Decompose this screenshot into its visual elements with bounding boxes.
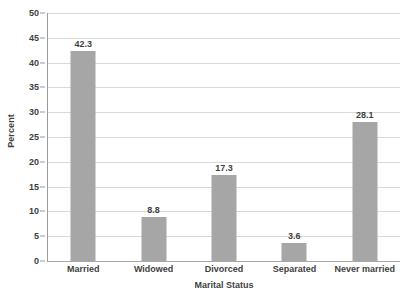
x-axis-tick-label: Divorced [205,264,244,274]
bars-layer: 42.38.817.33.628.1 [48,13,400,261]
y-axis-tick-label: 10 [29,206,39,216]
gridline [48,261,400,262]
y-axis-tick-label: 30 [29,107,39,117]
y-axis-ticks: 05101520253035404550 [0,13,48,261]
x-axis-title: Marital Status [48,280,400,290]
bar-slot: 42.3 [48,13,118,261]
y-axis-tick-mark [40,13,45,14]
bar-slot: 8.8 [118,13,188,261]
bar[interactable] [211,175,236,261]
bar[interactable] [141,217,166,261]
bar-slot: 3.6 [259,13,329,261]
bar-value-label: 17.3 [215,163,233,173]
y-axis-tick-mark [40,112,45,113]
bar[interactable] [71,51,96,261]
bar-chart: Percent 05101520253035404550 42.38.817.3… [0,0,410,297]
y-axis-tick-mark [40,211,45,212]
bar-value-label: 28.1 [356,110,374,120]
y-axis-tick-label: 35 [29,82,39,92]
x-axis-tick-label: Married [67,264,100,274]
y-axis-tick-mark [40,186,45,187]
y-axis-tick-mark [40,137,45,138]
y-axis-tick-mark [40,87,45,88]
y-axis-tick-mark [40,161,45,162]
y-axis-tick-mark [40,261,45,262]
y-axis-tick-label: 5 [34,231,39,241]
x-axis-tick-label: Widowed [134,264,173,274]
y-axis-tick-label: 25 [29,132,39,142]
x-axis-tick-label: Separated [273,264,317,274]
y-axis-tick-mark [40,236,45,237]
y-axis-tick-mark [40,62,45,63]
bar-value-label: 8.8 [147,205,160,215]
y-axis-tick-label: 50 [29,8,39,18]
y-axis-tick-mark [40,37,45,38]
x-axis-tick-label: Never married [335,264,396,274]
y-axis-tick-label: 20 [29,157,39,167]
bar-value-label: 3.6 [288,231,301,241]
bar-slot: 17.3 [189,13,259,261]
bar-value-label: 42.3 [74,39,92,49]
y-axis-tick-label: 15 [29,182,39,192]
bar[interactable] [352,122,377,261]
plot-area: 42.38.817.33.628.1 [48,13,400,261]
bar-slot: 28.1 [330,13,400,261]
y-axis-tick-label: 40 [29,58,39,68]
y-axis-tick-label: 0 [34,256,39,266]
y-axis-tick-label: 45 [29,33,39,43]
bar[interactable] [282,243,307,261]
x-axis-tick-labels: MarriedWidowedDivorcedSeparatedNever mar… [48,264,400,280]
